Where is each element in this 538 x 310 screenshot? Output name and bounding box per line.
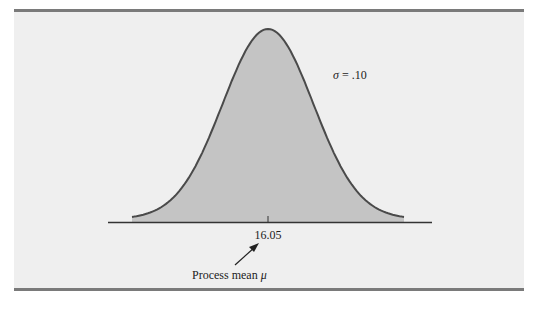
sigma-value: = .10: [339, 68, 367, 82]
curve-area: [132, 29, 404, 222]
sigma-label: σ = .10: [333, 68, 367, 82]
normal-distribution-chart: 16.05 σ = .10 Process mean μ: [0, 0, 538, 310]
tick-label-mean: 16.05: [255, 228, 282, 242]
mu-symbol: μ: [260, 268, 267, 282]
process-mean-label: Process mean μ: [192, 268, 267, 282]
process-mean-text: Process mean: [192, 268, 261, 282]
